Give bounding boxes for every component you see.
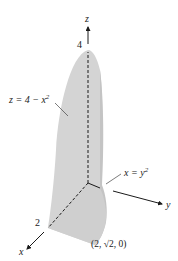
z-tick-label: 4 xyxy=(77,39,82,50)
solid-region-diagram: z 4 2 x y z = 4 − x2 x = y2 (2, √2, 0) xyxy=(0,0,178,261)
z-axis-label: z xyxy=(84,13,89,24)
corner-point-label: (2, √2, 0) xyxy=(91,239,126,250)
y-axis-label: y xyxy=(165,199,171,210)
surface-label-parabolic-wall: x = y2 xyxy=(106,166,149,184)
parabolic-wall-equation: x = y xyxy=(123,167,145,178)
parabolic-cylinder-equation: z = 4 − x xyxy=(8,94,46,105)
leader-line xyxy=(106,174,121,184)
svg-text:x = y2: x = y2 xyxy=(123,166,149,178)
x-axis-label: x xyxy=(18,246,24,257)
parabolic-cylinder-exponent: 2 xyxy=(46,93,50,101)
solid-body xyxy=(48,50,107,245)
surface-label-parabolic-cylinder: z = 4 − x2 xyxy=(8,93,68,116)
parabolic-wall-exponent: 2 xyxy=(145,166,149,174)
svg-text:z = 4 − x2: z = 4 − x2 xyxy=(8,93,50,105)
x-tick-label: 2 xyxy=(35,217,40,228)
